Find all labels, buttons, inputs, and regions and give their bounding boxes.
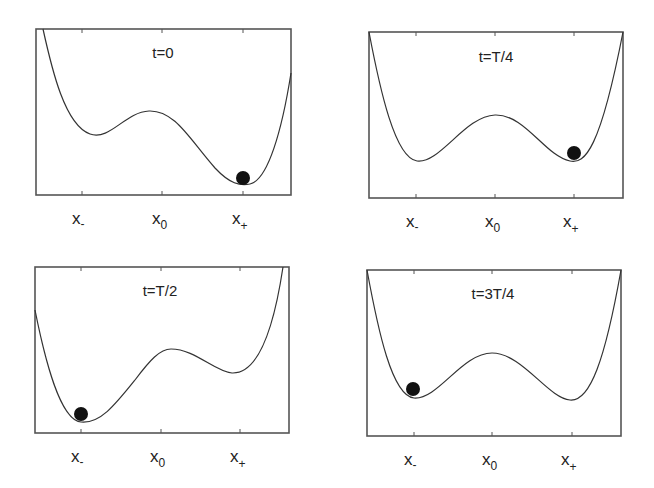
- label-x0: x0: [485, 212, 501, 235]
- panel-t-three-quarter: t=3T/4 x- x0 x+: [367, 270, 621, 474]
- label-x-minus: x-: [71, 447, 84, 469]
- panel-t-half: t=T/2 x- x0 x+: [35, 267, 289, 471]
- label-x-plus: x+: [563, 212, 579, 236]
- label-x-minus: x-: [404, 450, 417, 472]
- particle-ball: [236, 171, 250, 185]
- label-x-plus: x+: [232, 209, 248, 233]
- panel-t0: t=0 x- x0 x+: [36, 29, 291, 233]
- label-x0: x0: [150, 447, 166, 470]
- particle-ball: [406, 382, 420, 396]
- panel-title: t=T/4: [479, 48, 514, 65]
- particle-ball: [567, 146, 581, 160]
- panel-title: t=0: [152, 44, 173, 61]
- panel-title: t=T/2: [143, 282, 178, 299]
- label-x-minus: x-: [406, 212, 419, 234]
- label-x0: x0: [152, 209, 168, 232]
- label-x-plus: x+: [230, 447, 246, 471]
- particle-ball: [74, 407, 88, 421]
- label-x0: x0: [482, 450, 498, 473]
- label-x-plus: x+: [561, 450, 577, 474]
- figure-canvas: t=0 x- x0 x+ t=T/4 x- x0 x+ t=T/2 x- x0 …: [0, 0, 654, 488]
- panel-title: t=3T/4: [472, 285, 515, 302]
- panel-t-quarter: t=T/4 x- x0 x+: [369, 32, 623, 236]
- label-x-minus: x-: [72, 209, 85, 231]
